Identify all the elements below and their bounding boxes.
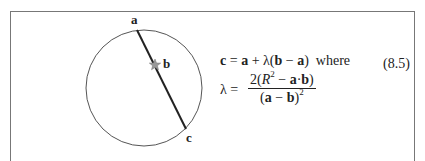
exponent: 2	[299, 87, 304, 97]
var-R: R	[262, 72, 271, 87]
var-a: a	[265, 90, 272, 105]
numerator: 2(R2 − a·b)	[248, 71, 316, 89]
num-open: 2(	[250, 72, 262, 87]
point-label-a: a	[131, 13, 138, 26]
circle	[86, 30, 202, 146]
equals: =	[226, 53, 241, 68]
plus-lambda: + λ(	[248, 53, 274, 68]
where-text: where	[309, 53, 350, 68]
minus: −	[272, 90, 287, 105]
var-b: b	[301, 72, 309, 87]
equation-number: (8.5)	[383, 56, 410, 72]
equation-line-1: c = a + λ(b − a) where	[220, 53, 350, 69]
chord-line	[137, 30, 186, 129]
point-label-c: c	[186, 131, 192, 144]
lambda-fraction: 2(R2 − a·b) (a − b)2	[248, 71, 316, 107]
var-a: a	[290, 72, 297, 87]
point-label-b: b	[163, 57, 170, 70]
denominator: (a − b)2	[248, 89, 316, 107]
lambda-equals: λ =	[220, 82, 238, 97]
lambda-lhs: λ =	[220, 82, 238, 98]
num-close: )	[309, 72, 314, 87]
minus: −	[282, 53, 297, 68]
circle-chord-diagram	[0, 0, 425, 161]
minus: −	[275, 72, 290, 87]
